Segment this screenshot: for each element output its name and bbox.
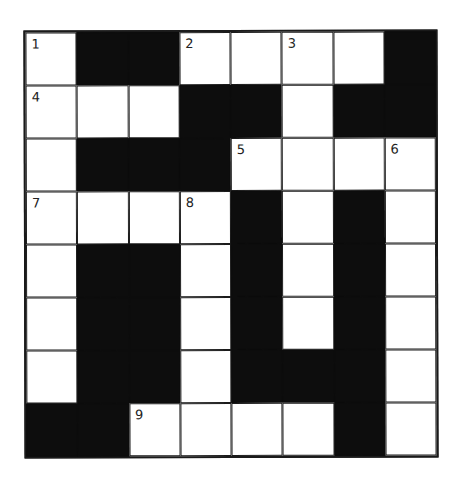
black-square (334, 297, 385, 350)
answer-cell[interactable]: 9 (129, 403, 180, 456)
black-square (77, 138, 128, 191)
answer-cell[interactable] (128, 85, 179, 138)
crossword-grid: 123456789 (23, 29, 438, 458)
black-square (231, 297, 282, 350)
black-square (77, 297, 128, 350)
black-square (384, 84, 435, 137)
answer-cell[interactable]: 1 (25, 32, 76, 85)
clue-number: 8 (186, 196, 194, 209)
answer-cell[interactable] (282, 138, 333, 191)
black-square (333, 244, 384, 297)
black-square (179, 85, 230, 138)
answer-cell[interactable] (26, 350, 77, 403)
answer-cell[interactable] (333, 32, 384, 85)
black-square (78, 350, 129, 403)
clue-number: 1 (31, 38, 39, 51)
answer-cell[interactable]: 5 (231, 138, 282, 191)
black-square (129, 297, 180, 350)
black-square (283, 350, 334, 403)
black-square (77, 244, 128, 297)
answer-cell[interactable]: 8 (180, 191, 231, 244)
answer-cell[interactable] (385, 243, 436, 296)
answer-cell[interactable] (230, 32, 281, 85)
answer-cell[interactable]: 4 (26, 85, 77, 138)
answer-cell[interactable] (333, 138, 384, 191)
black-square (78, 403, 129, 456)
answer-cell[interactable] (26, 297, 77, 350)
black-square (334, 350, 385, 403)
black-square (333, 85, 384, 138)
black-square (179, 138, 230, 191)
clue-number: 3 (288, 37, 296, 50)
answer-cell[interactable]: 7 (26, 191, 77, 244)
black-square (26, 403, 77, 456)
black-square (231, 244, 282, 297)
answer-cell[interactable] (282, 191, 333, 244)
answer-cell[interactable] (282, 85, 333, 138)
black-square (384, 31, 435, 84)
clue-number: 6 (390, 143, 398, 156)
clue-number: 2 (185, 37, 193, 50)
black-square (129, 350, 180, 403)
answer-cell[interactable] (385, 349, 436, 402)
answer-cell[interactable]: 3 (282, 32, 333, 85)
answer-cell[interactable] (180, 350, 231, 403)
answer-cell[interactable] (282, 244, 333, 297)
clue-number: 5 (237, 143, 245, 156)
crossword-page: 123456789 (0, 0, 462, 485)
black-square (128, 138, 179, 191)
black-square (333, 191, 384, 244)
answer-cell[interactable] (385, 296, 436, 349)
answer-cell[interactable] (180, 403, 231, 456)
answer-cell[interactable] (180, 244, 231, 297)
black-square (128, 32, 179, 85)
answer-cell[interactable]: 2 (179, 32, 230, 85)
black-square (231, 350, 282, 403)
black-square (231, 191, 282, 244)
clue-number: 9 (135, 408, 143, 421)
answer-cell[interactable]: 6 (384, 137, 435, 190)
answer-cell[interactable] (77, 191, 128, 244)
answer-cell[interactable] (128, 191, 179, 244)
answer-cell[interactable] (282, 297, 333, 350)
black-square (77, 32, 128, 85)
answer-cell[interactable] (385, 190, 436, 243)
answer-cell[interactable] (385, 402, 436, 455)
black-square (231, 85, 282, 138)
answer-cell[interactable] (231, 403, 282, 456)
answer-cell[interactable] (283, 403, 334, 456)
answer-cell[interactable] (77, 85, 128, 138)
black-square (129, 244, 180, 297)
clue-number: 7 (32, 196, 40, 209)
clue-number: 4 (32, 90, 40, 103)
answer-cell[interactable] (26, 244, 77, 297)
answer-cell[interactable] (26, 138, 77, 191)
answer-cell[interactable] (180, 297, 231, 350)
black-square (334, 403, 385, 456)
